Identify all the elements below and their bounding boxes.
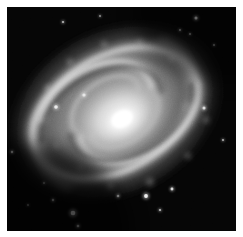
- image-grain: [7, 7, 236, 231]
- galaxy-canvas: [7, 7, 236, 231]
- galaxy-image: [7, 7, 236, 231]
- image-viewer: Spiral Galaxy Image: [0, 0, 243, 237]
